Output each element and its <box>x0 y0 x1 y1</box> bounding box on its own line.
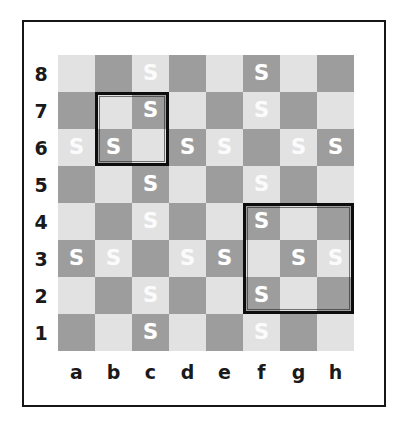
square-b2[interactable] <box>95 277 132 314</box>
square-mark: S <box>143 285 158 306</box>
square-e8[interactable] <box>206 55 243 92</box>
square-mark: S <box>143 63 158 84</box>
square-e4[interactable] <box>206 203 243 240</box>
square-f3[interactable] <box>243 240 280 277</box>
rank-label-1: 1 <box>28 314 54 351</box>
square-f7[interactable]: S <box>243 92 280 129</box>
rank-label-5: 5 <box>28 166 54 203</box>
square-mark: S <box>180 137 195 158</box>
square-b4[interactable] <box>95 203 132 240</box>
file-label-e: e <box>206 356 243 388</box>
square-f1[interactable]: S <box>243 314 280 351</box>
square-a8[interactable] <box>58 55 95 92</box>
square-mark: S <box>143 174 158 195</box>
square-mark: S <box>106 137 121 158</box>
square-e1[interactable] <box>206 314 243 351</box>
rank-label-column: 87654321 <box>28 55 54 351</box>
square-mark: S <box>69 248 84 269</box>
square-h3[interactable]: S <box>317 240 354 277</box>
square-mark: S <box>217 137 232 158</box>
square-e6[interactable]: S <box>206 129 243 166</box>
square-c4[interactable]: S <box>132 203 169 240</box>
square-f6[interactable] <box>243 129 280 166</box>
square-b1[interactable] <box>95 314 132 351</box>
square-h6[interactable]: S <box>317 129 354 166</box>
square-f5[interactable]: S <box>243 166 280 203</box>
square-mark: S <box>328 248 343 269</box>
square-a4[interactable] <box>58 203 95 240</box>
rank-label-8: 8 <box>28 55 54 92</box>
square-mark: S <box>254 63 269 84</box>
square-mark: S <box>254 211 269 232</box>
file-label-row: abcdefgh <box>58 356 354 388</box>
square-b8[interactable] <box>95 55 132 92</box>
square-e3[interactable]: S <box>206 240 243 277</box>
square-h8[interactable] <box>317 55 354 92</box>
square-b3[interactable]: S <box>95 240 132 277</box>
square-a2[interactable] <box>58 277 95 314</box>
square-d8[interactable] <box>169 55 206 92</box>
file-label-g: g <box>280 356 317 388</box>
square-d3[interactable]: S <box>169 240 206 277</box>
square-c5[interactable]: S <box>132 166 169 203</box>
square-g4[interactable] <box>280 203 317 240</box>
square-c1[interactable]: S <box>132 314 169 351</box>
square-f2[interactable]: S <box>243 277 280 314</box>
square-d4[interactable] <box>169 203 206 240</box>
square-h2[interactable] <box>317 277 354 314</box>
square-g7[interactable] <box>280 92 317 129</box>
chessboard-grid[interactable]: SSSSSSSSSSSSSSSSSSSSSSSS <box>58 55 354 351</box>
square-h7[interactable] <box>317 92 354 129</box>
square-a3[interactable]: S <box>58 240 95 277</box>
square-g8[interactable] <box>280 55 317 92</box>
square-g3[interactable]: S <box>280 240 317 277</box>
rank-label-6: 6 <box>28 129 54 166</box>
file-label-b: b <box>95 356 132 388</box>
square-mark: S <box>291 137 306 158</box>
square-mark: S <box>254 174 269 195</box>
rank-label-7: 7 <box>28 92 54 129</box>
square-mark: S <box>69 137 84 158</box>
square-a7[interactable] <box>58 92 95 129</box>
square-c8[interactable]: S <box>132 55 169 92</box>
square-d5[interactable] <box>169 166 206 203</box>
square-mark: S <box>180 248 195 269</box>
square-f4[interactable]: S <box>243 203 280 240</box>
rank-label-4: 4 <box>28 203 54 240</box>
square-c6[interactable] <box>132 129 169 166</box>
square-b6[interactable]: S <box>95 129 132 166</box>
square-h4[interactable] <box>317 203 354 240</box>
square-e5[interactable] <box>206 166 243 203</box>
square-d1[interactable] <box>169 314 206 351</box>
square-e7[interactable] <box>206 92 243 129</box>
square-a6[interactable]: S <box>58 129 95 166</box>
square-mark: S <box>217 248 232 269</box>
square-h1[interactable] <box>317 314 354 351</box>
square-g6[interactable]: S <box>280 129 317 166</box>
file-label-c: c <box>132 356 169 388</box>
square-mark: S <box>254 100 269 121</box>
square-c2[interactable]: S <box>132 277 169 314</box>
square-b7[interactable] <box>95 92 132 129</box>
square-mark: S <box>143 100 158 121</box>
file-label-h: h <box>317 356 354 388</box>
square-a5[interactable] <box>58 166 95 203</box>
square-a1[interactable] <box>58 314 95 351</box>
square-g1[interactable] <box>280 314 317 351</box>
square-mark: S <box>143 322 158 343</box>
square-c3[interactable] <box>132 240 169 277</box>
rank-label-2: 2 <box>28 277 54 314</box>
square-d7[interactable] <box>169 92 206 129</box>
square-g5[interactable] <box>280 166 317 203</box>
square-d6[interactable]: S <box>169 129 206 166</box>
file-label-d: d <box>169 356 206 388</box>
square-c7[interactable]: S <box>132 92 169 129</box>
square-f8[interactable]: S <box>243 55 280 92</box>
square-e2[interactable] <box>206 277 243 314</box>
square-g2[interactable] <box>280 277 317 314</box>
square-d2[interactable] <box>169 277 206 314</box>
square-mark: S <box>254 285 269 306</box>
square-h5[interactable] <box>317 166 354 203</box>
file-label-a: a <box>58 356 95 388</box>
square-b5[interactable] <box>95 166 132 203</box>
